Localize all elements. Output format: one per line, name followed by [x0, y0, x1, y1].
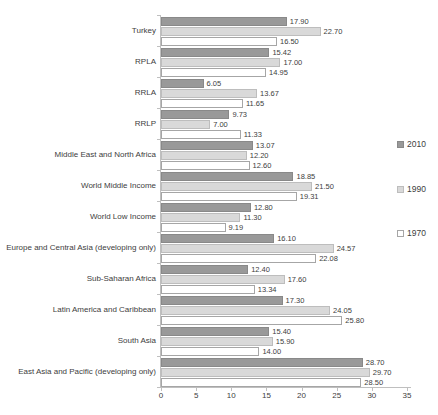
bar-1990-east-asia-and-pacific-developing-only: [161, 368, 370, 377]
legend-label-1990: 1990: [407, 184, 426, 194]
legend-label-2010: 2010: [407, 139, 426, 149]
bar-1970-turkey: [161, 37, 277, 46]
category-label-latin-america-and-caribbean: Latin America and Caribbean: [53, 294, 156, 325]
category-label-middle-east-and-north-africa: Middle East and North Africa: [55, 139, 156, 170]
legend-marker-2010: [397, 141, 404, 148]
bar-1970-south-asia: [161, 347, 259, 356]
category-label-rrlp: RRLP: [135, 108, 156, 139]
value-label-1970-middle-east-and-north-africa: 12.60: [253, 160, 272, 171]
bar-2010-rpla: [161, 48, 269, 57]
value-label-2010-rrlp: 9.73: [232, 109, 247, 120]
category-label-sub-saharan-africa: Sub-Saharan Africa: [87, 263, 156, 294]
value-label-1990-sub-saharan-africa: 17.60: [288, 274, 307, 285]
x-axis-tick-label-15: 15: [262, 391, 271, 400]
x-axis-tick-label-10: 10: [227, 391, 236, 400]
bar-1990-latin-america-and-caribbean: [161, 306, 330, 315]
bar-1990-south-asia: [161, 337, 273, 346]
legend-item-2010: 2010: [397, 139, 426, 149]
bar-2010-south-asia: [161, 327, 269, 336]
bar-1970-rrla: [161, 99, 243, 108]
bar-1990-rpla: [161, 58, 280, 67]
category-label-europe-and-central-asia-developing-only: Europe and Central Asia (developing only…: [6, 232, 156, 263]
bar-1970-rpla: [161, 68, 266, 77]
category-label-turkey: Turkey: [132, 15, 156, 46]
legend-marker-1970: [397, 230, 404, 237]
bar-2010-europe-and-central-asia-developing-only: [161, 234, 274, 243]
bar-2010-latin-america-and-caribbean: [161, 296, 283, 305]
bar-2010-world-low-income: [161, 203, 251, 212]
value-label-1970-east-asia-and-pacific-developing-only: 28.50: [364, 377, 383, 388]
bar-1970-world-low-income: [161, 223, 226, 232]
value-label-1970-europe-and-central-asia-developing-only: 22.08: [319, 253, 338, 264]
bar-2010-east-asia-and-pacific-developing-only: [161, 358, 363, 367]
value-label-2010-latin-america-and-caribbean: 17.30: [286, 295, 305, 306]
value-label-2010-turkey: 17.90: [290, 16, 309, 27]
category-label-rrla: RRLA: [135, 77, 156, 108]
bar-1990-europe-and-central-asia-developing-only: [161, 244, 334, 253]
bar-1970-middle-east-and-north-africa: [161, 161, 250, 170]
value-label-2010-world-middle-income: 18.85: [296, 171, 315, 182]
value-label-2010-europe-and-central-asia-developing-only: 16.10: [277, 233, 296, 244]
category-label-world-low-income: World Low Income: [90, 201, 156, 232]
x-axis-tick-label-30: 30: [367, 391, 376, 400]
value-label-1970-world-middle-income: 19.31: [300, 191, 319, 202]
bar-2010-sub-saharan-africa: [161, 265, 248, 274]
x-axis-tick-label-35: 35: [403, 391, 412, 400]
value-label-1970-world-low-income: 9.19: [229, 222, 244, 233]
value-label-1990-europe-and-central-asia-developing-only: 24.57: [337, 243, 356, 254]
bar-1970-world-middle-income: [161, 192, 297, 201]
bar-1970-europe-and-central-asia-developing-only: [161, 254, 316, 263]
category-label-world-middle-income: World Middle Income: [81, 170, 156, 201]
bar-1990-middle-east-and-north-africa: [161, 151, 247, 160]
category-label-rpla: RPLA: [135, 46, 156, 77]
value-label-1970-south-asia: 14.00: [262, 346, 281, 357]
x-axis-tick-label-20: 20: [297, 391, 306, 400]
category-label-east-asia-and-pacific-developing-only: East Asia and Pacific (developing only): [18, 356, 156, 387]
bar-1970-east-asia-and-pacific-developing-only: [161, 378, 361, 387]
value-axis-line: [157, 387, 411, 388]
value-label-2010-sub-saharan-africa: 12.40: [251, 264, 270, 275]
value-label-1970-rrla: 11.65: [246, 98, 264, 109]
bar-2010-rrla: [161, 79, 204, 88]
value-label-1990-rrlp: 7.00: [213, 119, 228, 130]
bar-1990-rrlp: [161, 120, 210, 129]
bar-2010-world-middle-income: [161, 172, 293, 181]
value-label-1970-rpla: 14.95: [269, 67, 288, 78]
value-label-1970-latin-america-and-caribbean: 25.80: [345, 315, 364, 326]
bar-1990-world-middle-income: [161, 182, 312, 191]
value-label-1990-world-low-income: 11.30: [243, 212, 261, 223]
bar-2010-turkey: [161, 17, 287, 26]
x-axis-tick-label-5: 5: [194, 391, 198, 400]
category-axis-line: [160, 15, 161, 387]
x-axis-tick-label-25: 25: [332, 391, 341, 400]
value-label-1970-sub-saharan-africa: 13.34: [258, 284, 277, 295]
bar-1990-rrla: [161, 89, 257, 98]
bar-chart: TurkeyRPLARRLARRLPMiddle East and North …: [0, 0, 438, 415]
value-label-2010-rrla: 6.05: [207, 78, 222, 89]
legend-label-1970: 1970: [407, 228, 426, 238]
bar-2010-middle-east-and-north-africa: [161, 141, 253, 150]
bar-1970-latin-america-and-caribbean: [161, 316, 342, 325]
bar-1970-sub-saharan-africa: [161, 285, 255, 294]
category-label-south-asia: South Asia: [118, 325, 156, 356]
value-label-1970-rrlp: 11.33: [244, 129, 262, 140]
legend-item-1990: 1990: [397, 184, 426, 194]
x-axis-tick-label-0: 0: [159, 391, 163, 400]
bar-1970-rrlp: [161, 130, 241, 139]
value-label-1970-turkey: 16.50: [280, 36, 299, 47]
legend-marker-1990: [397, 186, 404, 193]
legend-item-1970: 1970: [397, 228, 426, 238]
value-label-1990-turkey: 22.70: [324, 26, 343, 37]
